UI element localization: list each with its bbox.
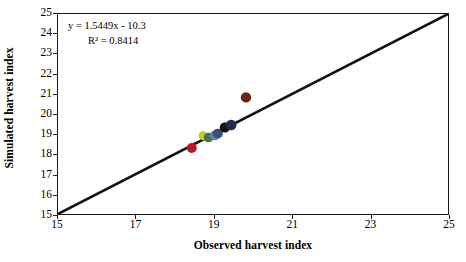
y-axis-tick-label: 18 xyxy=(30,148,52,160)
x-axis-tick-label: 21 xyxy=(277,219,307,231)
y-axis-title: Simulated harvest index xyxy=(0,0,18,215)
x-axis-tick-label: 23 xyxy=(356,219,386,231)
x-axis-tick-mark xyxy=(57,215,58,219)
y-axis-tick-label: 21 xyxy=(30,88,52,100)
x-axis-tick-mark xyxy=(449,215,450,219)
x-axis-tick-mark xyxy=(292,215,293,219)
x-axis-tick-label: 25 xyxy=(434,219,464,231)
y-axis-tick-group: 1516171819202122232425 xyxy=(26,13,52,215)
x-axis-tick-mark xyxy=(371,215,372,219)
x-axis-title: Observed harvest index xyxy=(57,239,449,251)
y-axis-tick-label: 25 xyxy=(30,7,52,19)
y-axis-tick-label: 17 xyxy=(30,169,52,181)
scatter-chart: Simulated harvest index 1516171819202122… xyxy=(0,0,466,262)
point-maroon xyxy=(241,92,251,102)
point-navy xyxy=(226,120,237,131)
x-axis-tick-mark xyxy=(214,215,215,219)
one-to-one-line xyxy=(58,14,448,214)
y-axis-tick-label: 16 xyxy=(30,189,52,201)
y-axis-title-label: Simulated harvest index xyxy=(3,47,15,168)
y-axis-tick-label: 22 xyxy=(30,68,52,80)
x-axis-tick-label: 17 xyxy=(120,219,150,231)
x-axis-tick-label: 19 xyxy=(199,219,229,231)
x-axis-tick-label: 15 xyxy=(42,219,72,231)
x-axis-tick-mark xyxy=(135,215,136,219)
point-red xyxy=(187,143,197,153)
x-axis-tick-group: 151719212325 xyxy=(57,216,449,236)
plot-area: y = 1.5449x - 10.3 R² = 0.8414 xyxy=(57,13,449,215)
y-axis-tick-label: 19 xyxy=(30,128,52,140)
y-axis-tick-label: 23 xyxy=(30,47,52,59)
y-axis-tick-label: 20 xyxy=(30,108,52,120)
data-layer xyxy=(58,14,448,214)
y-axis-tick-label: 24 xyxy=(30,27,52,39)
